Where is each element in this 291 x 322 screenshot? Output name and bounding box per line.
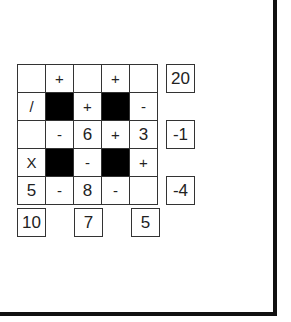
blocked-cell-r3c1: [46, 149, 74, 177]
col-result-2: 7: [74, 208, 103, 237]
grid-cell-r4c4[interactable]: [130, 177, 158, 205]
operator-cell-r0c1: +: [46, 65, 74, 93]
frame-right-border: [273, 0, 277, 316]
row-result-0: 20: [166, 64, 195, 93]
grid-cell-r0c2[interactable]: [74, 65, 102, 93]
grid-cell-r2c0[interactable]: [18, 121, 46, 149]
blocked-cell-r1c1: [46, 93, 74, 121]
grid-cell-r2c2: 6: [74, 121, 102, 149]
frame-bottom-border: [0, 312, 277, 316]
row-result-4: -4: [166, 176, 195, 205]
operator-cell-r2c1: -: [46, 121, 74, 149]
grid-cell-r4c0: 5: [18, 177, 46, 205]
operator-cell-r1c4: -: [130, 93, 158, 121]
operator-cell-r1c2: +: [74, 93, 102, 121]
operator-cell-r0c3: +: [102, 65, 130, 93]
operator-cell-r4c1: -: [46, 177, 74, 205]
operator-cell-r4c3: -: [102, 177, 130, 205]
grid-cell-r0c0[interactable]: [18, 65, 46, 93]
blocked-cell-r3c3: [102, 149, 130, 177]
grid-cell-r2c4: 3: [130, 121, 158, 149]
operator-cell-r1c0: /: [18, 93, 46, 121]
operator-cell-r3c2: -: [74, 149, 102, 177]
operator-cell-r2c3: +: [102, 121, 130, 149]
row-result-2: -1: [166, 120, 195, 149]
operator-cell-r3c4: +: [130, 149, 158, 177]
grid-cell-r0c4[interactable]: [130, 65, 158, 93]
grid-cell-r4c2: 8: [74, 177, 102, 205]
puzzle-grid: + + / + - - 6 + 3 X - + 5 - 8 -: [17, 64, 158, 205]
col-result-4: 5: [131, 208, 160, 237]
blocked-cell-r1c3: [102, 93, 130, 121]
operator-cell-r3c0: X: [18, 149, 46, 177]
col-result-0: 10: [17, 208, 46, 237]
